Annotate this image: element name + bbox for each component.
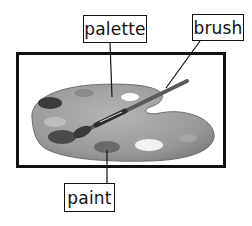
paint-blob-dark-1 [38, 97, 62, 109]
paint-blob-white [135, 139, 163, 151]
label-paint: paint [64, 183, 115, 212]
label-palette: palette [83, 15, 147, 43]
paint-blob-light-3 [179, 134, 197, 142]
paint-blob-light-2 [74, 89, 94, 97]
thumb-hole [121, 93, 139, 101]
label-brush: brush [192, 14, 244, 41]
paint-blob-dark-2 [48, 130, 76, 144]
paint-blob-light-1 [44, 117, 66, 127]
